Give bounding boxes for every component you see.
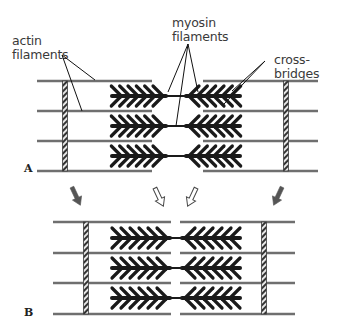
cross-bridge bbox=[148, 239, 157, 248]
cross-bridge bbox=[139, 228, 148, 237]
cross-bridge bbox=[121, 239, 130, 248]
cross-bridge bbox=[139, 269, 148, 278]
cross-bridge bbox=[112, 288, 121, 297]
cross-bridge bbox=[148, 228, 157, 237]
cross-bridge bbox=[139, 299, 148, 308]
cross-bridge bbox=[112, 258, 121, 267]
cross-bridge bbox=[231, 269, 240, 278]
cross-bridge bbox=[186, 288, 195, 297]
cross-bridge bbox=[222, 228, 231, 237]
cross-bridge bbox=[121, 258, 130, 267]
cross-bridge bbox=[186, 299, 195, 308]
cross-bridge bbox=[157, 288, 166, 297]
cross-bridge bbox=[148, 288, 157, 297]
outline-arrow-icon bbox=[150, 186, 168, 208]
myosin-leader bbox=[188, 44, 198, 92]
myosin-leader bbox=[168, 44, 188, 92]
cross-bridge bbox=[204, 269, 213, 278]
cross-bridge bbox=[231, 299, 240, 308]
cross-bridge bbox=[121, 269, 130, 278]
z-disc bbox=[262, 222, 267, 314]
cross-bridge bbox=[222, 239, 231, 248]
cross-bridge bbox=[130, 228, 139, 237]
cross-bridge bbox=[231, 288, 240, 297]
cross-bridge bbox=[157, 239, 166, 248]
cross-bridge bbox=[213, 228, 222, 237]
cross-bridge bbox=[112, 228, 121, 237]
cross-bridge bbox=[231, 228, 240, 237]
cross-bridge bbox=[130, 299, 139, 308]
outline-arrow-icon bbox=[183, 186, 201, 208]
cross-bridge bbox=[130, 258, 139, 267]
z-disc bbox=[63, 81, 68, 171]
cross-bridge bbox=[213, 258, 222, 267]
cross-bridge bbox=[112, 269, 121, 278]
cross-bridge bbox=[195, 288, 204, 297]
cross-bridge bbox=[222, 288, 231, 297]
cross-bridge bbox=[186, 269, 195, 278]
cross-bridge bbox=[139, 239, 148, 248]
cross-bridge bbox=[204, 228, 213, 237]
cross-bridge bbox=[231, 239, 240, 248]
z-disc bbox=[284, 81, 289, 171]
panel-b-contracted bbox=[53, 222, 295, 314]
z-disc bbox=[84, 222, 89, 314]
cross-bridge bbox=[222, 299, 231, 308]
cross-bridge bbox=[157, 258, 166, 267]
cross-bridge bbox=[195, 239, 204, 248]
cross-bridge bbox=[186, 228, 195, 237]
cross-bridge bbox=[112, 239, 121, 248]
cross-bridge bbox=[213, 299, 222, 308]
cross-bridge bbox=[121, 299, 130, 308]
cross-bridge bbox=[213, 288, 222, 297]
cross-bridge-leader bbox=[224, 61, 265, 104]
cross-bridge bbox=[148, 269, 157, 278]
cross-bridge bbox=[195, 299, 204, 308]
cross-bridge bbox=[130, 288, 139, 297]
cross-bridge bbox=[204, 299, 213, 308]
cross-bridge bbox=[204, 258, 213, 267]
cross-bridge bbox=[222, 258, 231, 267]
cross-bridge bbox=[148, 258, 157, 267]
leader-lines bbox=[62, 44, 265, 126]
cross-bridge bbox=[157, 299, 166, 308]
myosin-leader bbox=[176, 44, 188, 126]
cross-bridge bbox=[195, 269, 204, 278]
cross-bridge bbox=[130, 239, 139, 248]
cross-bridge bbox=[204, 239, 213, 248]
cross-bridge bbox=[157, 269, 166, 278]
solid-arrow-icon bbox=[67, 185, 85, 207]
cross-bridge bbox=[112, 299, 121, 308]
cross-bridge bbox=[195, 258, 204, 267]
cross-bridge bbox=[157, 228, 166, 237]
cross-bridge bbox=[213, 269, 222, 278]
cross-bridge bbox=[121, 288, 130, 297]
panel-a-relaxed bbox=[37, 81, 318, 171]
cross-bridge bbox=[186, 258, 195, 267]
cross-bridge bbox=[213, 239, 222, 248]
cross-bridge bbox=[222, 269, 231, 278]
sarcomere-diagram bbox=[0, 0, 348, 323]
cross-bridge bbox=[130, 269, 139, 278]
cross-bridge bbox=[204, 288, 213, 297]
cross-bridge bbox=[139, 288, 148, 297]
cross-bridge bbox=[231, 258, 240, 267]
cross-bridge bbox=[139, 258, 148, 267]
cross-bridge bbox=[195, 228, 204, 237]
solid-arrow-icon bbox=[269, 185, 287, 207]
cross-bridge bbox=[148, 299, 157, 308]
transition-arrows bbox=[67, 185, 286, 208]
cross-bridge bbox=[121, 228, 130, 237]
cross-bridge bbox=[186, 239, 195, 248]
